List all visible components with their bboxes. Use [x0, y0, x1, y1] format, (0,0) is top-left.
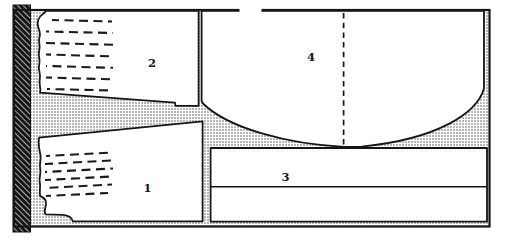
- cutting-layout-canvas: 2 4 1 3: [0, 0, 514, 241]
- piece-1-outline: [39, 121, 203, 221]
- top-border-gap: [240, 6, 262, 14]
- piece-4-outline: [202, 11, 484, 147]
- piece-3-label: 3: [281, 170, 289, 184]
- piece-4-label: 4: [307, 50, 315, 64]
- piece-2-outline: [38, 11, 199, 106]
- selvage-hatch-strip: [13, 5, 31, 232]
- piece-1-label: 1: [143, 181, 151, 195]
- cutting-layout-figure: 2 4 1 3: [0, 0, 514, 241]
- piece-3-outline: [211, 148, 487, 222]
- piece-2-label: 2: [148, 56, 156, 70]
